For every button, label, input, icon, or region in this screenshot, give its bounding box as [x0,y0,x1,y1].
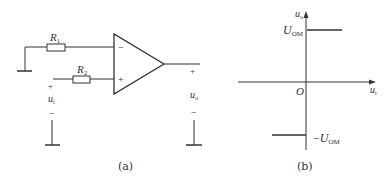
caption-b: (b) [297,160,313,173]
diagram-canvas: R1 R2 − + + ui − + uo − (a) uo UOM O ui … [0,0,391,185]
origin-label: O [296,85,304,97]
label-r2: R2 [76,63,88,77]
x-axis-label: ui [370,84,377,96]
input-minus-sign: − [49,108,55,119]
opamp-noninverting-sign: + [118,74,124,85]
caption-a: (a) [118,160,133,173]
resistor-r1 [47,44,65,51]
opamp-inverting-sign: − [118,42,124,53]
resistor-r2 [73,76,90,83]
input-plus-sign: + [48,81,53,91]
circuit-a [17,34,202,145]
label-u-om: UOM [283,23,304,38]
output-plus-sign: + [190,66,195,76]
y-axis-label: uo [295,8,303,20]
transfer-plot-b [238,11,376,150]
output-minus-sign: − [191,107,197,118]
y-axis-arrow-icon [304,11,309,18]
label-input-voltage: ui [48,93,55,105]
label-r1: R1 [49,31,61,45]
label-output-voltage: uo [190,89,198,101]
label-neg-u-om: −UOM [313,131,341,146]
